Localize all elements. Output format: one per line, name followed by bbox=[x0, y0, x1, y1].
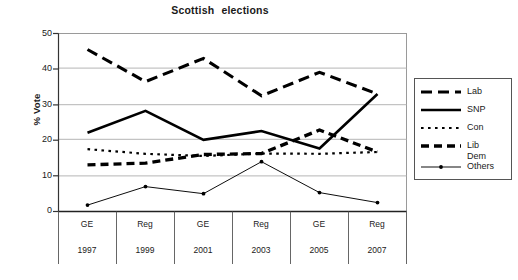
series-line-snp bbox=[88, 94, 378, 149]
legend-item-lab[interactable]: Lab bbox=[415, 84, 511, 100]
series-line-lab bbox=[88, 50, 378, 96]
legend-swatch-lib-dem bbox=[419, 138, 463, 154]
legend-item-con[interactable]: Con bbox=[415, 120, 511, 136]
legend-swatch-lab bbox=[419, 84, 463, 100]
x-cat-year-1: 1999 bbox=[116, 245, 174, 255]
legend-swatch-con bbox=[419, 120, 463, 136]
legend-label-lib: Lib bbox=[467, 140, 479, 150]
x-cat-type-4: GE bbox=[290, 219, 348, 229]
x-cat-type-5: Reg bbox=[348, 219, 406, 229]
series-markers-others bbox=[86, 160, 380, 207]
x-cat-type-3: Reg bbox=[232, 219, 290, 229]
legend-swatch-others bbox=[419, 159, 463, 175]
y-axis bbox=[53, 34, 59, 212]
x-cat-year-0: 1997 bbox=[58, 245, 116, 255]
x-cat-year-5: 2007 bbox=[348, 245, 406, 255]
legend: Lab SNP Con Lib Dem Other bbox=[414, 78, 512, 180]
legend-swatch-snp bbox=[419, 102, 463, 118]
chart-container: Scottish elections % Vote 50 40 30 20 10… bbox=[0, 0, 518, 280]
legend-label-lab: Lab bbox=[467, 86, 482, 96]
legend-label-others: Others bbox=[467, 161, 494, 171]
series-line-others bbox=[88, 162, 378, 205]
x-cat-year-4: 2005 bbox=[290, 245, 348, 255]
x-cat-type-2: GE bbox=[174, 219, 232, 229]
legend-label-snp: SNP bbox=[467, 104, 486, 114]
legend-label-con: Con bbox=[467, 122, 484, 132]
x-cat-year-3: 2003 bbox=[232, 245, 290, 255]
legend-item-snp[interactable]: SNP bbox=[415, 102, 511, 118]
x-cat-year-2: 2001 bbox=[174, 245, 232, 255]
legend-item-others[interactable]: Others bbox=[415, 159, 511, 175]
x-cat-type-1: Reg bbox=[116, 219, 174, 229]
x-cat-type-0: GE bbox=[58, 219, 116, 229]
plot-frame bbox=[59, 34, 407, 212]
